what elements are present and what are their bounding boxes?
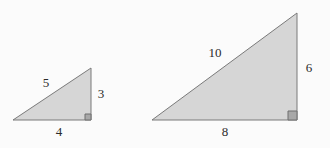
figure-canvas: 5 3 4 10 6 8 xyxy=(0,0,330,148)
right-angle-marker-small xyxy=(85,114,91,120)
large-hypotenuse-label: 10 xyxy=(209,45,222,60)
large-horizontal-leg-label: 8 xyxy=(222,124,229,139)
small-horizontal-leg-label: 4 xyxy=(56,124,63,139)
small-vertical-leg-label: 3 xyxy=(98,86,105,101)
large-vertical-leg-label: 6 xyxy=(306,60,313,75)
triangles-diagram: 5 3 4 10 6 8 xyxy=(0,0,330,148)
small-hypotenuse-label: 5 xyxy=(43,75,50,90)
right-angle-marker-large xyxy=(288,111,297,120)
